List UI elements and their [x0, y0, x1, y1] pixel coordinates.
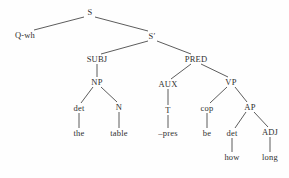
tree-node-aux: AUX: [158, 80, 177, 89]
tree-edge-s-to-qwh: [34, 17, 84, 30]
tree-edge-vp-to-ap: [235, 87, 247, 102]
tree-node-t: T: [165, 106, 170, 115]
tree-node-long: long: [262, 153, 278, 162]
tree-node-ap: AP: [244, 103, 255, 112]
tree-edge-pred-to-vp: [201, 64, 228, 77]
tree-node-n: N: [116, 103, 122, 112]
tree-edge-np-to-n: [101, 87, 117, 102]
tree-edge-vp-to-cop: [210, 87, 227, 103]
tree-node-np: NP: [91, 78, 102, 87]
tree-node-sbar: S′: [149, 32, 156, 41]
syntax-tree-figure: SQ-whS′SUBJPREDNPAUXVPdetNTcopAPthetable…: [0, 0, 289, 178]
tree-edge-sbar-to-subj: [101, 41, 148, 54]
tree-edge-s-to-sbar: [95, 17, 148, 31]
tree-node-cop: cop: [201, 104, 214, 113]
tree-edge-pred-to-aux: [171, 64, 191, 79]
tree-node-qwh: Q-wh: [15, 31, 35, 40]
tree-node-table: table: [110, 129, 128, 138]
tree-node-s: S: [88, 8, 93, 17]
tree-edges-layer: [0, 0, 289, 178]
tree-node-det2: det: [227, 129, 238, 138]
tree-edge-ap-to-det2: [235, 112, 246, 128]
tree-node-pred: PRED: [185, 55, 208, 64]
tree-edge-np-to-det1: [81, 87, 93, 103]
tree-edge-sbar-to-pred: [157, 41, 191, 54]
tree-node-adj: ADJ: [262, 128, 278, 137]
tree-node-the: the: [74, 129, 85, 138]
tree-node-pres: –pres: [158, 129, 177, 138]
tree-node-vp: VP: [225, 78, 236, 87]
tree-node-det1: det: [74, 104, 85, 113]
tree-node-be: be: [203, 129, 211, 138]
tree-node-how: how: [224, 153, 239, 162]
tree-node-subj: SUBJ: [87, 55, 108, 64]
tree-edge-ap-to-adj: [254, 112, 268, 127]
